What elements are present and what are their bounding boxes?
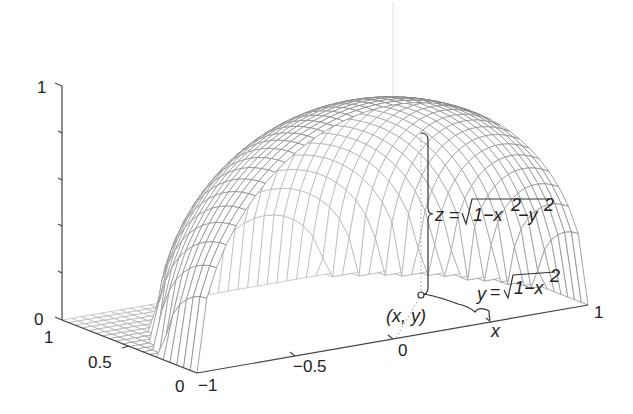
hemisphere-figure: 1 0 1 0.5 0 −1 −0.5 0 1 (x, y) x z = 1−x… [0,0,633,414]
z-tick-0 [55,317,62,320]
z-tick-1 [55,83,62,86]
x-tick-0 [388,335,393,339]
y-eq-radicand: 1−x [514,278,545,298]
y-tick-0.5 [122,346,129,348]
z-eq-equals: = [449,205,460,225]
wireframe-mesh [62,97,588,373]
y-label-1: 1 [44,328,53,347]
z-eq-mid: −y [518,205,539,225]
z-eq-radicand: 1−x [473,205,504,225]
point-marker [418,292,424,298]
x-label-neg0.5: −0.5 [293,357,327,376]
point-label: (x, y) [386,306,426,326]
y-label-0: 0 [175,377,184,396]
x-label-1: 1 [594,303,603,322]
surface-plot: 1 0 1 0.5 0 −1 −0.5 0 1 (x, y) x z = 1−x… [0,0,633,414]
x-label-neg1: −1 [198,376,217,395]
y-eq-sup: 2 [549,266,560,286]
z-eq-sup2: 2 [543,195,554,215]
x-marker-label: x [490,321,501,341]
y-label-0.5: 0.5 [88,353,112,372]
z-eq-lhs: z [434,205,444,225]
y-eq-lhs: y [475,284,487,304]
z-label-0: 0 [34,310,43,329]
x-label-0: 0 [398,341,407,360]
y-eq-equals: = [490,282,501,302]
x-tick-neg0.5 [290,352,295,356]
z-label-1: 1 [37,78,46,97]
